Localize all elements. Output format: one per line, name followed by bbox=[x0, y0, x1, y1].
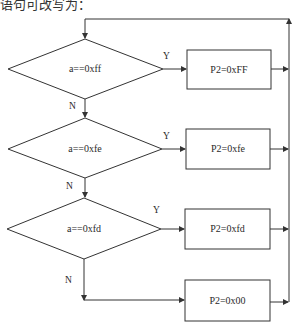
decision-2-label: a==0xfe bbox=[55, 143, 115, 155]
no-label-2: N bbox=[66, 181, 73, 192]
decision-1-label: a==0xff bbox=[55, 63, 115, 75]
no-label-3: N bbox=[65, 275, 72, 286]
yes-label-3: Y bbox=[153, 205, 160, 216]
process-2-label: P2=0xfe bbox=[186, 143, 270, 155]
no-label-1: N bbox=[69, 101, 76, 112]
process-4-label: P2=0x00 bbox=[185, 295, 270, 307]
yes-label-2: Y bbox=[163, 131, 170, 142]
loop-top-line bbox=[85, 19, 289, 38]
yes-label-1: Y bbox=[163, 51, 170, 62]
decision-3-label: a==0xfd bbox=[54, 223, 114, 235]
flowchart-canvas bbox=[0, 0, 296, 329]
process-1-label: P2=0xFF bbox=[187, 64, 271, 76]
process-3-label: P2=0xfd bbox=[185, 223, 270, 235]
